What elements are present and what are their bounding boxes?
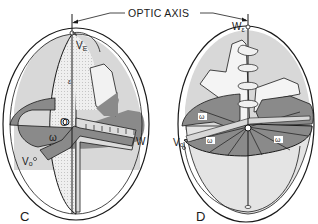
origin-point-d bbox=[245, 125, 251, 131]
label-omega-right-d: ω bbox=[275, 136, 281, 143]
label-omega-left-d: ω bbox=[199, 113, 205, 120]
label-epsilon: ε bbox=[68, 78, 71, 85]
label-omega-c: ω bbox=[49, 132, 57, 143]
callout-leader-right bbox=[200, 13, 246, 20]
panel-label-c: C bbox=[20, 209, 29, 224]
figure-d: Wε ω ω ω Vo D bbox=[173, 14, 314, 224]
optic-axis-callout: OPTIC AXIS bbox=[72, 6, 248, 24]
optic-indicatrix-diagram: VE ε ω O W Vo C bbox=[0, 0, 318, 224]
optic-axis-label: OPTIC AXIS bbox=[128, 7, 189, 19]
figure-c: VE ε ω O W Vo C bbox=[3, 14, 149, 224]
callout-arrow-left bbox=[72, 20, 78, 24]
label-origin: O bbox=[60, 117, 68, 128]
w-epsilon-point bbox=[246, 25, 250, 29]
label-w: W bbox=[136, 136, 146, 147]
panel-label-d: D bbox=[196, 209, 205, 224]
callout-arrow-right bbox=[242, 18, 248, 22]
label-omega-center-d: ω bbox=[207, 137, 213, 144]
bottom-point-d bbox=[245, 206, 251, 209]
label-w-epsilon: Wε bbox=[232, 21, 245, 33]
v-omega-point-c bbox=[34, 158, 37, 161]
callout-leader-left bbox=[74, 13, 125, 22]
